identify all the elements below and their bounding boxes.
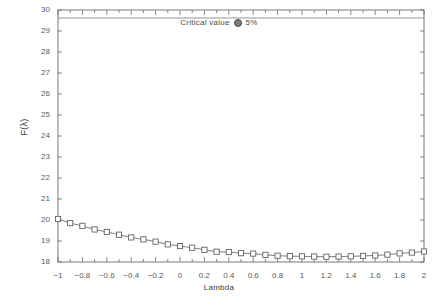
y-tick-label: 28 <box>26 48 50 56</box>
plot-frame <box>58 10 424 262</box>
data-point-marker <box>263 252 268 257</box>
y-tick-label: 25 <box>26 111 50 119</box>
y-tick-label: 30 <box>26 6 50 14</box>
data-point-marker <box>324 254 329 259</box>
data-point-marker <box>116 232 121 237</box>
plot-area <box>0 0 438 300</box>
data-point-marker <box>92 227 97 232</box>
data-point-marker <box>153 239 158 244</box>
y-tick-label: 23 <box>26 153 50 161</box>
data-point-marker <box>336 254 341 259</box>
data-point-marker <box>104 229 109 234</box>
data-point-marker <box>214 249 219 254</box>
data-point-marker <box>373 253 378 258</box>
y-tick-label: 29 <box>26 27 50 35</box>
data-point-marker <box>409 250 414 255</box>
data-point-marker <box>141 237 146 242</box>
data-point-marker <box>299 254 304 259</box>
data-point-marker <box>129 235 134 240</box>
y-tick-label: 24 <box>26 132 50 140</box>
data-point-marker <box>202 247 207 252</box>
data-point-marker <box>385 252 390 257</box>
data-point-marker <box>251 251 256 256</box>
data-point-marker <box>348 254 353 259</box>
chart-container: F(λ) Lambda Critical value 5% 1819202122… <box>0 0 438 300</box>
y-tick-label: 26 <box>26 90 50 98</box>
data-point-marker <box>177 243 182 248</box>
data-point-marker <box>275 253 280 258</box>
y-tick-label: 20 <box>26 216 50 224</box>
data-point-marker <box>226 250 231 255</box>
data-point-marker <box>360 253 365 258</box>
data-point-marker <box>421 249 426 254</box>
data-point-marker <box>397 251 402 256</box>
y-tick-label: 22 <box>26 174 50 182</box>
data-point-marker <box>287 254 292 259</box>
data-point-marker <box>312 254 317 259</box>
y-tick-label: 27 <box>26 69 50 77</box>
data-point-marker <box>165 242 170 247</box>
x-tick-label: 2 <box>409 272 438 280</box>
y-tick-label: 18 <box>26 258 50 266</box>
data-point-marker <box>68 221 73 226</box>
data-point-marker <box>55 216 60 221</box>
data-point-marker <box>238 251 243 256</box>
y-tick-label: 19 <box>26 237 50 245</box>
data-point-marker <box>190 245 195 250</box>
data-point-marker <box>80 223 85 228</box>
y-tick-label: 21 <box>26 195 50 203</box>
